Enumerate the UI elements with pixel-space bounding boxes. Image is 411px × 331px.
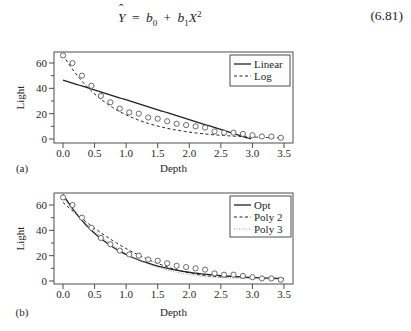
fit-line-poly-2 <box>63 202 227 277</box>
figure: 0204060Light0.00.51.01.52.02.53.03.5Dept… <box>0 0 411 331</box>
data-point-marker <box>108 100 113 105</box>
data-point-marker <box>117 106 122 111</box>
data-point-marker <box>184 122 189 127</box>
data-point-marker <box>269 276 274 281</box>
y-tick-label: 20 <box>36 108 48 120</box>
legend-label: Opt <box>254 199 271 211</box>
data-point-marker <box>231 130 236 135</box>
panel-b-chart: 0204060Light0.00.51.01.52.02.53.03.5Dept… <box>14 193 293 319</box>
x-tick-label: 2.5 <box>214 147 228 159</box>
legend: LinearLog <box>230 55 290 86</box>
legend: OptPoly 2Poly 3 <box>230 196 291 237</box>
data-point-marker <box>212 271 217 276</box>
data-point-marker <box>136 111 141 116</box>
data-point-marker <box>98 235 103 240</box>
data-point-marker <box>193 266 198 271</box>
data-point-marker <box>89 225 94 230</box>
y-axis-label: Light <box>14 86 26 110</box>
data-point-marker <box>79 73 84 78</box>
legend-label: Poly 2 <box>254 211 282 223</box>
y-tick-label: 60 <box>36 57 48 69</box>
data-point-marker <box>240 273 245 278</box>
legend-label: Poly 3 <box>254 223 283 235</box>
data-point-marker <box>89 83 94 88</box>
legend-label: Log <box>254 70 272 82</box>
data-point-marker <box>108 242 113 247</box>
y-axis: 0204060Light <box>14 57 54 145</box>
x-tick-label: 3.5 <box>277 288 291 300</box>
data-point-marker <box>155 258 160 263</box>
y-tick-label: 40 <box>36 82 48 94</box>
x-tick-label: 3.0 <box>246 147 260 159</box>
data-point-marker <box>221 272 226 277</box>
x-tick-label: 0.5 <box>88 288 102 300</box>
data-point-marker <box>155 116 160 121</box>
x-tick-label: 3.5 <box>277 147 291 159</box>
x-axis: 0.00.51.01.52.02.53.03.5Depth <box>56 284 291 318</box>
data-point-marker <box>278 135 283 140</box>
panel-label: (a) <box>16 162 29 175</box>
x-tick-label: 1.0 <box>119 288 133 300</box>
data-point-marker <box>240 131 245 136</box>
y-axis-label: Light <box>14 227 26 251</box>
data-point-marker <box>259 134 264 139</box>
data-point-marker <box>127 110 132 115</box>
y-tick-label: 40 <box>36 224 48 236</box>
data-point-marker <box>278 277 283 282</box>
data-point-marker <box>184 264 189 269</box>
data-point-marker <box>146 115 151 120</box>
data-point-marker <box>221 130 226 135</box>
data-point-marker <box>70 202 75 207</box>
data-point-marker <box>60 53 65 58</box>
x-tick-label: 2.0 <box>182 288 196 300</box>
data-point-marker <box>202 125 207 130</box>
data-point-marker <box>174 263 179 268</box>
data-point-marker <box>98 93 103 98</box>
data-point-marker <box>60 195 65 200</box>
data-point-marker <box>117 248 122 253</box>
x-tick-label: 0.5 <box>88 147 102 159</box>
y-tick-label: 0 <box>42 133 48 145</box>
panel-a-chart: 0204060Light0.00.51.01.52.02.53.03.5Dept… <box>14 52 293 175</box>
x-tick-label: 1.0 <box>119 147 133 159</box>
y-tick-label: 20 <box>36 250 48 262</box>
data-point-marker <box>146 257 151 262</box>
x-tick-label: 0.0 <box>56 288 70 300</box>
x-tick-label: 2.5 <box>214 288 228 300</box>
data-point-marker <box>250 133 255 138</box>
data-point-marker <box>202 267 207 272</box>
y-tick-label: 60 <box>36 199 48 211</box>
x-tick-label: 1.5 <box>151 147 165 159</box>
x-axis-label: Depth <box>160 162 187 174</box>
data-point-marker <box>70 60 75 65</box>
data-point-marker <box>193 124 198 129</box>
panel-label: (b) <box>16 306 29 319</box>
data-point-marker <box>259 276 264 281</box>
data-point-marker <box>127 252 132 257</box>
x-tick-label: 0.0 <box>56 147 70 159</box>
data-point-marker <box>231 272 236 277</box>
y-tick-label: 0 <box>42 275 48 287</box>
legend-label: Linear <box>254 58 283 70</box>
x-axis: 0.00.51.01.52.02.53.03.5Depth <box>56 143 291 174</box>
data-point-marker <box>212 129 217 134</box>
x-axis-label: Depth <box>160 306 187 318</box>
data-point-marker <box>269 134 274 139</box>
y-axis: 0204060Light <box>14 199 54 287</box>
x-tick-label: 3.0 <box>246 288 260 300</box>
x-tick-label: 1.5 <box>151 288 165 300</box>
data-point-marker <box>165 119 170 124</box>
data-point-marker <box>174 121 179 126</box>
data-point-marker <box>79 215 84 220</box>
data-point-marker <box>136 253 141 258</box>
data-point-marker <box>250 275 255 280</box>
data-point-marker <box>165 261 170 266</box>
x-tick-label: 2.0 <box>182 147 196 159</box>
